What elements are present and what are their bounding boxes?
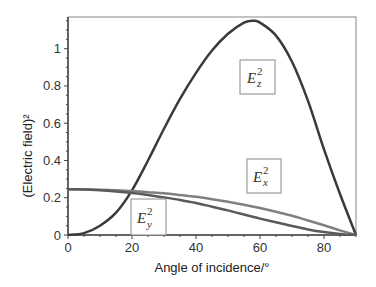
series-line-x bbox=[68, 189, 356, 235]
y-tick-label: 0.4 bbox=[43, 153, 61, 168]
chart: 00.20.40.60.81 020406080 E 2 z E 2 x E 2… bbox=[0, 0, 376, 287]
series-line-z bbox=[68, 21, 356, 235]
series-line-y bbox=[68, 189, 356, 235]
x-ticks: 020406080 bbox=[64, 235, 356, 255]
x-tick-label: 80 bbox=[317, 240, 331, 255]
legend-ez: E 2 z bbox=[240, 60, 275, 94]
y-axis-label: (Electric field)² bbox=[20, 114, 35, 198]
ey-sub: y bbox=[146, 218, 152, 230]
y-tick-label: 0 bbox=[54, 228, 61, 243]
x-tick-label: 40 bbox=[189, 240, 203, 255]
ex-sup: 2 bbox=[263, 164, 269, 176]
x-tick-label: 0 bbox=[64, 240, 71, 255]
y-tick-label: 0.8 bbox=[43, 78, 61, 93]
x-tick-label: 20 bbox=[125, 240, 139, 255]
x-tick-label: 60 bbox=[253, 240, 267, 255]
svg-text:E: E bbox=[246, 70, 256, 86]
x-axis-label: Angle of incidence/° bbox=[154, 260, 269, 275]
y-tick-label: 0.2 bbox=[43, 190, 61, 205]
ey-sup: 2 bbox=[147, 205, 153, 217]
ex-sub: x bbox=[262, 176, 268, 188]
ey-base: E bbox=[136, 210, 146, 226]
legend-ey: E 2 y bbox=[131, 199, 166, 235]
series-lines bbox=[68, 21, 356, 235]
legend-ex: E 2 x bbox=[247, 159, 281, 193]
y-tick-label: 1 bbox=[54, 41, 61, 56]
ez-sub: z bbox=[256, 77, 262, 89]
ez-base: E bbox=[246, 70, 256, 86]
ex-base: E bbox=[252, 169, 262, 185]
y-tick-label: 0.6 bbox=[43, 116, 61, 131]
y-ticks: 00.20.40.60.81 bbox=[43, 21, 68, 243]
ez-sup: 2 bbox=[257, 65, 263, 77]
